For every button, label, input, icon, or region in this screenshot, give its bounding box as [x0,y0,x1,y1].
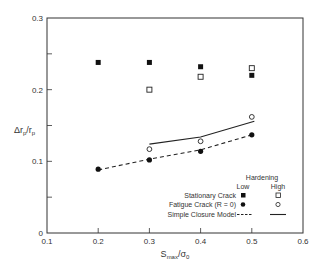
legend-row-label: Fatigue Crack (R = 0) [169,201,236,209]
chart: 0.10.20.30.40.50.6 00.10.20.3 Smax/σ0 Δr… [0,0,326,269]
y-tick-labels: 00.10.20.3 [32,14,44,238]
filled-circle-marker [96,167,101,172]
y-tick-label: 0.2 [32,86,44,95]
legend-header: Hardening [246,174,278,182]
legend-filled-circle [241,202,246,207]
open-circle-marker [249,115,254,120]
y-axis-title: Δrp/rp [14,125,36,136]
legend-row-label: Simple Closure Model [168,211,237,219]
legend-row-label: Stationary Crack [184,192,236,200]
filled-square-marker [96,60,101,65]
open-circle-marker [147,147,152,152]
x-tick-label: 0.1 [41,237,53,246]
filled-square-marker [249,73,254,78]
open-circle-marker [198,139,203,144]
y-tick-label: 0.1 [32,157,44,166]
data-series [96,60,255,172]
legend-col-low: Low [237,183,251,190]
filled-circle-marker [147,157,152,162]
x-axis-title: Smax/σ0 [161,249,190,260]
filled-square-marker [198,64,203,69]
x-tick-label: 0.4 [195,237,207,246]
legend-open-circle [276,202,280,206]
legend-col-high: High [271,183,286,191]
x-axis-label: Smax/σ0 [161,249,190,260]
open-square-marker [249,66,254,71]
y-tick-label: 0.3 [32,14,44,23]
filled-circle-marker [249,132,254,137]
legend-open-square [276,193,281,198]
y-axis-label: Δrp/rp [14,125,36,136]
open-square-marker [198,74,203,79]
x-tick-label: 0.3 [144,237,156,246]
y-tick-label: 0 [39,229,44,238]
x-tick-label: 0.6 [297,237,309,246]
filled-circle-marker [198,149,203,154]
open-square-marker [147,87,152,92]
x-tick-label: 0.5 [246,237,258,246]
legend: HardeningLowHighStationary CrackFatigue … [168,174,286,219]
x-tick-labels: 0.10.20.30.40.50.6 [41,237,309,246]
filled-square-marker [147,60,152,65]
legend-filled-square [241,193,246,198]
closure-model-low-line [98,134,254,170]
x-tick-label: 0.2 [93,237,105,246]
